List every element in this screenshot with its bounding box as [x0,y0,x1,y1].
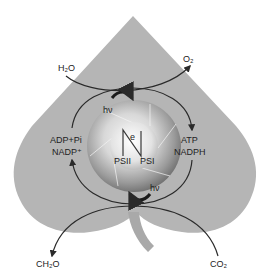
label-electron: e [130,132,135,142]
label-psi: PSI [140,156,155,166]
label-co2: CO₂ [210,259,228,269]
label-ch2o: CH₂O [36,259,60,269]
label-adp-pi: ADP+Pi [50,135,82,145]
label-h2o: H₂O [58,63,75,73]
label-nadp-plus: NADP⁺ [52,147,82,157]
label-atp: ATP [181,135,198,145]
label-nadph: NADPH [174,147,206,157]
label-o2: O₂ [183,54,194,64]
label-hv-top: hν [103,105,113,115]
label-hv-bottom: hν [150,183,160,193]
photosynthesis-diagram: H₂O O₂ hν hν ADP+Pi NADP⁺ ATP NADPH e PS… [0,0,266,272]
label-psii: PSII [114,156,131,166]
